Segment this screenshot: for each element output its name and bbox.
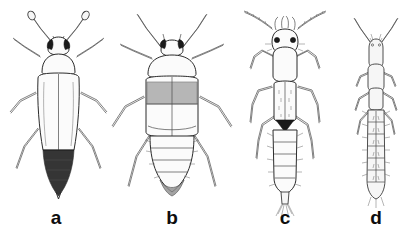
terminal-segment-c <box>281 192 289 204</box>
eye-left-c <box>274 37 279 42</box>
figure-label-c: c <box>265 208 305 227</box>
pronotum-c <box>273 47 297 82</box>
figure-label-b: b <box>152 208 192 227</box>
figure-label-a: a <box>36 208 76 227</box>
figure-label-d: d <box>356 208 396 227</box>
insect-illustration-plate <box>0 0 407 235</box>
mesothorax-d <box>369 88 383 110</box>
wings-b <box>146 76 198 137</box>
eye-right-c <box>290 37 295 42</box>
